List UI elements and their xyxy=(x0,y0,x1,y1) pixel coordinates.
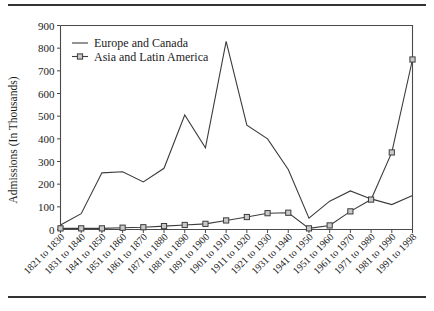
figure-container: Admissions (In Thousands) 01002003004005… xyxy=(0,0,434,311)
data-point-marker xyxy=(244,214,249,219)
data-point-marker xyxy=(58,226,63,231)
data-point-marker xyxy=(306,226,311,231)
chart-plot-area: Admissions (In Thousands) 01002003004005… xyxy=(0,12,434,294)
y-tick-label: 500 xyxy=(38,110,55,122)
data-point-marker xyxy=(79,226,84,231)
y-tick-label: 700 xyxy=(38,65,55,77)
series-layer xyxy=(58,41,415,231)
legend-label: Asia and Latin America xyxy=(94,50,209,64)
x-axis-ticks: 1821 to 18301831 to 18401841 to 18501851… xyxy=(21,230,418,277)
data-point-marker xyxy=(141,225,146,230)
top-divider-rule xyxy=(8,4,426,6)
legend-swatch-marker xyxy=(77,54,82,59)
y-tick-label: 200 xyxy=(38,178,55,190)
y-axis-title-text: Admissions (In Thousands) xyxy=(7,76,20,203)
data-point-marker xyxy=(389,150,394,155)
data-point-marker xyxy=(224,218,229,223)
data-point-marker xyxy=(327,223,332,228)
y-tick-label: 600 xyxy=(38,88,55,100)
data-point-marker xyxy=(182,222,187,227)
series-1 xyxy=(61,41,413,225)
data-point-marker xyxy=(203,221,208,226)
data-point-marker xyxy=(120,225,125,230)
data-point-marker xyxy=(348,209,353,214)
y-tick-label: 400 xyxy=(38,133,55,145)
chart-legend: Europe and CanadaAsia and Latin America xyxy=(72,36,209,64)
y-tick-label: 300 xyxy=(38,156,55,168)
data-point-marker xyxy=(161,224,166,229)
series-line-path xyxy=(61,41,413,225)
y-tick-label: 900 xyxy=(38,20,55,32)
bottom-divider-rule xyxy=(8,296,426,298)
y-tick-label: 800 xyxy=(38,42,55,54)
line-chart: Admissions (In Thousands) 01002003004005… xyxy=(0,12,434,294)
y-axis-title: Admissions (In Thousands) xyxy=(7,76,20,203)
data-point-marker xyxy=(265,211,270,216)
y-tick-label: 0 xyxy=(49,224,55,236)
y-tick-label: 100 xyxy=(38,201,55,213)
data-point-marker xyxy=(286,210,291,215)
y-axis-ticks: 0100200300400500600700800900 xyxy=(38,20,61,236)
legend-label: Europe and Canada xyxy=(94,36,189,50)
data-point-marker xyxy=(368,197,373,202)
data-point-marker xyxy=(410,57,415,62)
data-point-marker xyxy=(99,226,104,231)
